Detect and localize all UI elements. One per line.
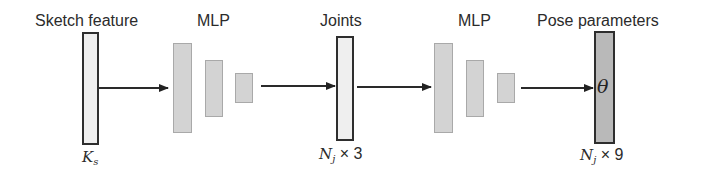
dim-suffix: × 9 bbox=[596, 146, 623, 163]
dim-sub: s bbox=[93, 156, 98, 167]
dim-suffix: × 3 bbox=[335, 145, 362, 162]
dim-pose-parameters: Nj × 9 bbox=[580, 146, 623, 169]
dim-main: N bbox=[319, 145, 332, 163]
dim-sketch-feature: Ks bbox=[82, 148, 98, 171]
dim-main: K bbox=[82, 148, 93, 166]
dim-main: N bbox=[580, 146, 593, 164]
dim-joints: Nj × 3 bbox=[319, 145, 362, 168]
